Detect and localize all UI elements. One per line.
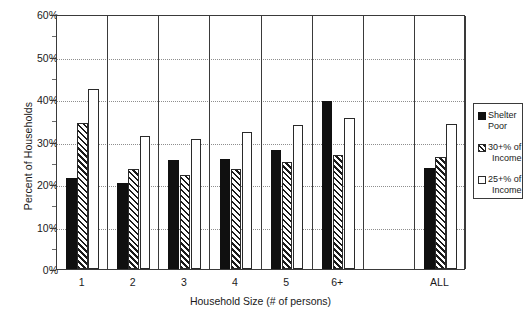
bar-4-shelter-poor xyxy=(220,159,231,269)
bar-2-30-of-income xyxy=(128,169,139,269)
x-tick-label-4: 4 xyxy=(209,276,260,288)
bar-ALL-shelter-poor xyxy=(424,168,435,269)
bar-5-25-of-income xyxy=(293,125,304,269)
bar-group-5 xyxy=(262,16,313,269)
x-tick-label-1: 1 xyxy=(56,276,107,288)
legend-swatch-open-icon xyxy=(478,176,486,184)
legend-label-25-percent-line1: 25+% of xyxy=(488,174,521,184)
bar-5-shelter-poor xyxy=(271,150,282,269)
bar-2-shelter-poor xyxy=(117,183,128,269)
legend-item-shelter-poor: Shelter Poor xyxy=(478,110,518,131)
bar-groups xyxy=(57,16,464,269)
bar-3-shelter-poor xyxy=(168,160,179,269)
legend-label-25-percent-line2: Income xyxy=(488,185,522,196)
bar-1-25-of-income xyxy=(88,89,99,269)
bar-6+-30-of-income xyxy=(333,155,344,269)
x-tick-label-ALL: ALL xyxy=(414,276,465,288)
legend-item-30-percent: 30+% of Income xyxy=(478,142,518,163)
bar-group-empty xyxy=(364,16,415,269)
legend-label-30-percent-line2: Income xyxy=(488,153,522,164)
legend-swatch-hatch-icon xyxy=(478,144,486,152)
bar-3-30-of-income xyxy=(180,175,191,269)
x-tick-label-2: 2 xyxy=(107,276,158,288)
bar-chart: Percent of Households 0%10%20%30%40%50%6… xyxy=(0,0,528,325)
bar-3-25-of-income xyxy=(191,139,202,269)
legend-swatch-solid-icon xyxy=(478,112,486,120)
bar-6+-shelter-poor xyxy=(322,101,333,269)
legend-label-30-percent: 30+% of Income xyxy=(488,142,522,163)
plot-area xyxy=(56,15,465,270)
y-axis-title: Percent of Households xyxy=(22,66,34,246)
group-separator xyxy=(414,16,415,269)
bar-1-shelter-poor xyxy=(66,178,77,269)
legend-label-30-percent-line1: 30+% of xyxy=(488,142,521,152)
bar-6+-25-of-income xyxy=(344,118,355,269)
chart-legend: Shelter Poor 30+% of Income 25+% of Inco… xyxy=(473,103,523,199)
x-axis-title: Household Size (# of persons) xyxy=(56,295,465,307)
legend-item-25-percent: 25+% of Income xyxy=(478,174,518,195)
group-separator xyxy=(465,16,466,269)
bar-group-4 xyxy=(210,16,261,269)
bar-2-25-of-income xyxy=(140,136,151,269)
bar-group-ALL xyxy=(415,16,466,269)
bar-group-6+ xyxy=(313,16,364,269)
x-tick-label-3: 3 xyxy=(158,276,209,288)
bar-group-2 xyxy=(108,16,159,269)
bar-ALL-30-of-income xyxy=(435,157,446,269)
bar-group-1 xyxy=(57,16,108,269)
bar-4-25-of-income xyxy=(242,132,253,269)
x-tick-label-5: 5 xyxy=(261,276,312,288)
bar-ALL-25-of-income xyxy=(446,124,457,269)
y-tick-mark-0 xyxy=(50,270,56,271)
bar-5-30-of-income xyxy=(282,162,293,269)
x-tick-label-6+: 6+ xyxy=(312,276,363,288)
legend-label-25-percent: 25+% of Income xyxy=(488,174,522,195)
legend-label-shelter-poor: Shelter Poor xyxy=(488,110,518,131)
bar-1-30-of-income xyxy=(77,123,88,269)
bar-4-30-of-income xyxy=(231,169,242,269)
bar-group-3 xyxy=(159,16,210,269)
